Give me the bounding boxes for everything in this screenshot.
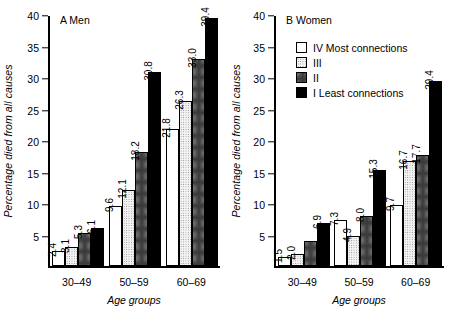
- x-axis-title-men: Age groups: [48, 294, 220, 306]
- bar[interactable]: 12.1: [122, 190, 135, 266]
- bar[interactable]: 26.3: [179, 101, 192, 267]
- bar[interactable]: 33.0: [192, 59, 205, 267]
- y-tick-label: 35: [253, 42, 265, 53]
- bar[interactable]: 3.1: [65, 247, 78, 267]
- bar[interactable]: 29.4: [429, 81, 442, 266]
- y-tick-mark: [42, 204, 48, 205]
- bar-value-label: 33.0: [188, 48, 198, 67]
- bar[interactable]: 18.2: [135, 152, 148, 267]
- bar[interactable]: 30.8: [148, 72, 161, 266]
- plot-area-men: 510152025303540 2.43.15.36.19.612.118.23…: [48, 16, 220, 268]
- x-axis-title-women: Age groups: [274, 294, 444, 306]
- y-axis-title: Percentage died from all causes: [0, 0, 16, 282]
- bar-group: 7.34.98.015.3: [332, 16, 388, 266]
- y-tick-mark: [42, 15, 48, 16]
- x-axis-line: [274, 266, 444, 268]
- bar-slot: 21.8: [166, 16, 179, 266]
- bar-group: 21.826.333.039.4: [163, 16, 220, 266]
- bar[interactable]: 9.7: [390, 205, 403, 266]
- y-tick-mark: [42, 173, 48, 174]
- bar-slot: 18.2: [135, 16, 148, 266]
- y-tick-mark: [268, 110, 274, 111]
- bar-slot: 15.3: [373, 16, 386, 266]
- figure-container: Percentage died from all causes A Men 51…: [0, 0, 453, 330]
- x-axis-categories-women: 30–4950–5960–69: [274, 276, 444, 288]
- bar[interactable]: 6.1: [91, 228, 104, 266]
- bar-slot: 1.5: [278, 16, 291, 266]
- bar-group: 9.716.717.729.4: [388, 16, 444, 266]
- bar-slot: 29.4: [429, 16, 442, 266]
- bar-value-label: 30.8: [144, 62, 154, 81]
- bar-slot: 33.0: [192, 16, 205, 266]
- bar[interactable]: 9.6: [109, 206, 122, 266]
- y-tick-mark: [268, 78, 274, 79]
- x-axis-category-label: 60–69: [163, 276, 220, 288]
- bar-value-label: 21.8: [162, 118, 172, 137]
- bar[interactable]: 39.4: [205, 18, 218, 266]
- y-tick-label: 15: [253, 168, 265, 179]
- y-tick-label: 25: [27, 105, 39, 116]
- bar-slot: 9.6: [109, 16, 122, 266]
- bar-slot: 39.4: [205, 16, 218, 266]
- y-tick-label: 40: [253, 11, 265, 22]
- bar-value-label: 6.1: [87, 220, 97, 234]
- bar-value-label: 17.7: [412, 144, 422, 163]
- bar-value-label: 39.4: [201, 7, 211, 26]
- y-axis-title-women: Percentage died from all causes: [228, 0, 244, 282]
- bar-groups-women: 1.52.06.97.34.98.015.39.716.717.729.4: [276, 16, 444, 266]
- bar[interactable]: 5.3: [78, 233, 91, 266]
- bar-value-label: 12.1: [118, 179, 128, 198]
- panel-men: Percentage died from all causes A Men 51…: [0, 0, 228, 330]
- bar[interactable]: 2.4: [52, 251, 65, 266]
- bar-value-label: 7.3: [330, 212, 340, 226]
- bar[interactable]: 6.9: [317, 223, 330, 266]
- y-tick-mark: [42, 236, 48, 237]
- y-tick-mark: [42, 110, 48, 111]
- bar-slot: 30.8: [148, 16, 161, 266]
- x-axis-categories-men: 30–4950–5960–69: [48, 276, 220, 288]
- y-tick-mark: [42, 141, 48, 142]
- bar[interactable]: 16.7: [403, 161, 416, 266]
- y-tick-label: 20: [253, 137, 265, 148]
- y-tick-mark: [42, 47, 48, 48]
- bar-value-label: 8.0: [356, 208, 366, 222]
- y-tick-label: 40: [27, 11, 39, 22]
- bar[interactable]: [304, 241, 317, 267]
- bar[interactable]: 15.3: [373, 170, 386, 266]
- x-axis-category-label: 30–49: [274, 276, 331, 288]
- y-tick-label: 25: [253, 105, 265, 116]
- plot-area-women: 510152025303540 1.52.06.97.34.98.015.39.…: [274, 16, 444, 268]
- bar-slot: 16.7: [403, 16, 416, 266]
- bar[interactable]: 8.0: [360, 216, 373, 266]
- bar-value-label: 6.9: [313, 215, 323, 229]
- y-tick-mark: [268, 173, 274, 174]
- bar-group: 1.52.06.9: [276, 16, 332, 266]
- y-tick-mark: [268, 204, 274, 205]
- x-axis-line: [48, 266, 220, 268]
- y-tick-label: 5: [33, 231, 39, 242]
- bar-group: 2.43.15.36.1: [50, 16, 107, 266]
- bar-value-label: 2.4: [48, 243, 58, 257]
- bar-value-label: 26.3: [175, 90, 185, 109]
- bar-slot: 9.7: [390, 16, 403, 266]
- bar[interactable]: 4.9: [347, 236, 360, 267]
- bar-slot: 2.4: [52, 16, 65, 266]
- panel-women: Percentage died from all causes B Women …: [228, 0, 453, 330]
- x-axis-category-label: 60–69: [387, 276, 444, 288]
- x-axis-category-label: 30–49: [48, 276, 105, 288]
- bar-value-label: 5.3: [74, 225, 84, 239]
- y-tick-label: 10: [253, 200, 265, 211]
- bar[interactable]: 21.8: [166, 129, 179, 266]
- bar[interactable]: 2.0: [291, 254, 304, 267]
- bar-value-label: 9.6: [105, 198, 115, 212]
- bar-groups-men: 2.43.15.36.19.612.118.230.821.826.333.03…: [50, 16, 220, 266]
- bar-value-label: 16.7: [399, 150, 409, 169]
- bar-value-label: 18.2: [131, 141, 141, 160]
- bar-slot: 2.0: [291, 16, 304, 266]
- bar[interactable]: 17.7: [416, 155, 429, 267]
- y-tick-label: 30: [27, 74, 39, 85]
- y-tick-mark: [268, 141, 274, 142]
- bar-slot: 6.9: [317, 16, 330, 266]
- x-axis-category-label: 50–59: [105, 276, 162, 288]
- y-tick-mark: [268, 47, 274, 48]
